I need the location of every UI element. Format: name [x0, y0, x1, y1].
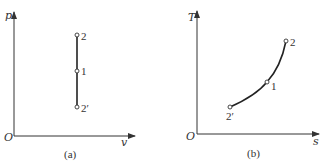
- state-point-2prime: [75, 105, 79, 109]
- origin-label: O: [4, 131, 13, 144]
- process-curve: [230, 41, 286, 107]
- thermo-diagram: p O v 2 1 2′ (a) T O s 2′ 1 2 (b): [0, 0, 329, 168]
- panel-caption: (b): [247, 147, 260, 160]
- point-label: 2: [290, 36, 296, 48]
- panel-caption: (a): [64, 148, 77, 161]
- origin-label: O: [186, 130, 195, 143]
- point-label: 2′: [81, 102, 89, 114]
- state-point-2prime: [228, 105, 232, 109]
- y-axis-label: T: [188, 11, 197, 24]
- panel-a-pv-diagram: p O v 2 1 2′ (a): [4, 9, 135, 161]
- point-label: 2′: [226, 110, 234, 122]
- point-label: 1: [271, 80, 277, 92]
- panel-b-ts-diagram: T O s 2′ 1 2 (b): [186, 11, 319, 160]
- state-point-2: [75, 33, 79, 37]
- x-axis-label: s: [313, 135, 319, 148]
- state-point-1: [265, 80, 269, 84]
- x-axis-label: v: [121, 136, 128, 149]
- point-label: 2: [81, 30, 87, 42]
- state-point-1: [75, 69, 79, 73]
- point-label: 1: [81, 65, 87, 77]
- state-point-2: [284, 39, 288, 43]
- y-axis-label: p: [5, 9, 12, 22]
